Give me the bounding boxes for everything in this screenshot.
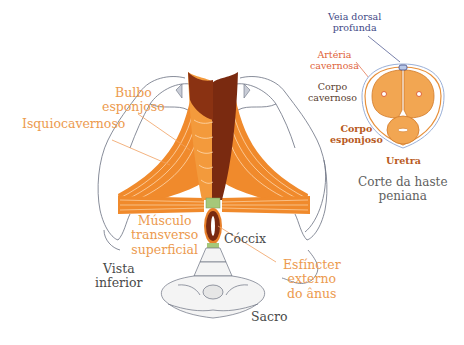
label-vista-inferior: Vista inferior: [95, 262, 143, 291]
label-corte-haste: Corte da haste peniana: [358, 176, 448, 204]
label-uretra: Uretra: [386, 156, 421, 167]
label-corpo-cavernoso: Corpo cavernoso: [308, 82, 357, 104]
label-veia-dorsal: Veia dorsal profunda: [328, 12, 381, 34]
label-arteria-cavernosa: Artéria cavernosa: [310, 50, 359, 72]
anatomy-diagram: [0, 0, 464, 345]
esfincter-anal: [204, 208, 222, 244]
label-esfincter: Esfíncter externo do ânus: [283, 258, 341, 301]
label-coccix: Cóccix: [224, 232, 266, 246]
label-bulbo-esponjoso: Bulbo esponjoso: [102, 86, 165, 115]
coccyx-sacrum: [161, 248, 264, 318]
label-corpo-esponjoso: Corpo esponjoso: [330, 124, 383, 146]
perineal-body: [206, 198, 220, 208]
label-musculo-transverso: Músculo transverso superficial: [131, 214, 198, 257]
label-sacro: Sacro: [251, 310, 288, 324]
label-isquiocavernoso: Isquiocavernoso: [22, 117, 125, 131]
